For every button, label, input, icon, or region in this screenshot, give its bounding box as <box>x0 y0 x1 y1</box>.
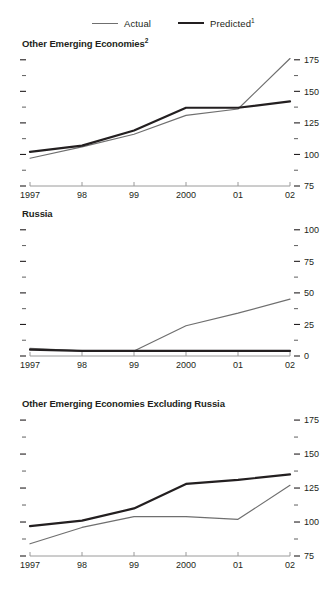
legend-label-actual: Actual <box>124 18 151 29</box>
x-axis-tick-label: 98 <box>77 190 87 200</box>
y-axis-tick-label: 75 <box>304 181 314 191</box>
x-axis-tick-label: 01 <box>233 190 243 200</box>
plot-area: 751001251501751997989920000102 <box>0 38 334 206</box>
y-axis-tick-label: 100 <box>304 225 319 235</box>
x-axis-tick-label: 2000 <box>176 190 196 200</box>
x-axis-tick-label: 98 <box>77 360 87 370</box>
legend-entry-actual: Actual <box>92 14 151 32</box>
x-axis-tick-label: 2000 <box>176 560 196 570</box>
x-axis-tick-label: 01 <box>233 360 243 370</box>
series-line-actual <box>30 299 290 351</box>
y-axis-tick-label: 175 <box>304 55 319 65</box>
y-axis-tick-label: 100 <box>304 150 319 160</box>
y-axis-tick-label: 75 <box>304 257 314 267</box>
legend-label-predicted: Predicted1 <box>210 18 255 29</box>
legend-swatch-actual <box>92 23 118 24</box>
y-axis-tick-label: 75 <box>304 551 314 561</box>
y-axis-tick-label: 125 <box>304 118 319 128</box>
y-axis-tick-label: 50 <box>304 288 314 298</box>
x-axis-tick-label: 02 <box>285 360 295 370</box>
series-line-actual <box>30 485 290 543</box>
chart-panel-russia: Russia 02550751001997989920000102 <box>0 208 334 376</box>
x-axis-tick-label: 2000 <box>176 360 196 370</box>
y-axis-tick-label: 100 <box>304 517 319 527</box>
y-axis-tick-label: 0 <box>304 351 309 361</box>
series-line-predicted <box>30 474 290 526</box>
x-axis-tick-label: 99 <box>129 560 139 570</box>
y-axis-tick-label: 150 <box>304 449 319 459</box>
y-axis-tick-label: 125 <box>304 483 319 493</box>
plot-area: 02550751001997989920000102 <box>0 208 334 376</box>
legend-entry-predicted: Predicted1 <box>178 14 255 32</box>
plot-area: 751001251501751997989920000102 <box>0 398 334 580</box>
x-axis-tick-label: 02 <box>285 190 295 200</box>
x-axis-tick-label: 02 <box>285 560 295 570</box>
x-axis-tick-label: 98 <box>77 560 87 570</box>
chart-panel-other-emerging-excluding-russia: Other Emerging Economies Excluding Russi… <box>0 398 334 580</box>
chart-legend: Actual Predicted1 <box>0 14 334 32</box>
x-axis-tick-label: 99 <box>129 360 139 370</box>
series-line-actual <box>30 59 290 159</box>
x-axis-tick-label: 1997 <box>20 190 40 200</box>
series-line-predicted <box>30 350 290 351</box>
y-axis-tick-label: 25 <box>304 320 314 330</box>
legend-footnote-marker-1: 1 <box>251 16 255 23</box>
y-axis-tick-label: 150 <box>304 87 319 97</box>
y-axis-tick-label: 175 <box>304 415 319 425</box>
x-axis-tick-label: 1997 <box>20 560 40 570</box>
figure-emerging-economies: Actual Predicted1 Other Emerging Economi… <box>0 0 334 590</box>
series-line-predicted <box>30 101 290 151</box>
x-axis-tick-label: 01 <box>233 560 243 570</box>
chart-panel-other-emerging-economies: Other Emerging Economies2 75100125150175… <box>0 38 334 206</box>
x-axis-tick-label: 1997 <box>20 360 40 370</box>
legend-swatch-predicted <box>178 22 204 24</box>
x-axis-tick-label: 99 <box>129 190 139 200</box>
